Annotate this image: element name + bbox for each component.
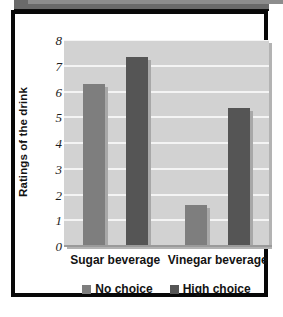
legend-label: No choice: [95, 282, 152, 296]
y-axis-title: Ratings of the drink: [17, 87, 29, 197]
bar[interactable]: [126, 57, 148, 246]
y-axis-tick-label: 5: [41, 111, 62, 124]
plot-area: [64, 40, 269, 246]
legend-swatch-icon: [82, 285, 91, 294]
y-axis-tick-label: 0: [41, 240, 62, 253]
chart-legend: No choiceHigh choice: [64, 282, 269, 296]
legend-label: High choice: [183, 282, 251, 296]
y-axis-tick-label: 8: [41, 34, 62, 47]
y-axis-tick-label: 1: [41, 214, 62, 227]
x-axis-category-label: Sugar beverage: [64, 253, 167, 267]
bar[interactable]: [185, 205, 207, 246]
y-axis-tick-label: 6: [41, 85, 62, 98]
x-axis-line: [64, 245, 272, 247]
legend-item[interactable]: No choice: [82, 282, 152, 296]
y-axis-tick-label: 4: [41, 137, 62, 150]
figure-plate: Ratings of the drink 012345678 Sugar bev…: [0, 0, 283, 317]
bar[interactable]: [83, 84, 105, 246]
x-axis-category-label: Vinegar beverage: [167, 253, 270, 267]
y-axis-tick-label: 3: [41, 162, 62, 175]
chart-card: Ratings of the drink 012345678 Sugar bev…: [11, 10, 268, 297]
legend-swatch-icon: [170, 285, 179, 294]
gridline: [64, 65, 269, 67]
gridline: [64, 40, 269, 41]
legend-item[interactable]: High choice: [170, 282, 251, 296]
bar[interactable]: [228, 108, 250, 246]
scan-top-band-highlight: [28, 0, 283, 4]
y-axis-tick-label: 7: [41, 59, 62, 72]
y-axis-tick-labels: 012345678: [41, 40, 62, 246]
y-axis-tick-label: 2: [41, 188, 62, 201]
